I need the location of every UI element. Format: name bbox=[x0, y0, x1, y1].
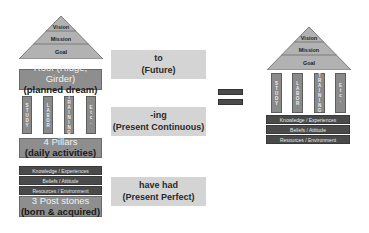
roof-subtitle: (planned dream) bbox=[24, 85, 98, 96]
right-pyramid: Vision Mission Goal bbox=[267, 27, 351, 70]
pillar-labor: LABOR bbox=[43, 96, 53, 134]
left-pyramid: Vision Mission Goal bbox=[19, 16, 103, 59]
continuous-tense: (Present Continuous) bbox=[113, 122, 205, 133]
bar-resources: Resources / Environment bbox=[19, 186, 102, 195]
pillar-training: TRAINING bbox=[64, 96, 74, 134]
bar-beliefs: Beliefs / Attitude bbox=[266, 125, 350, 134]
continuous-box: -ing (Present Continuous) bbox=[111, 107, 206, 136]
stones-box: 3 Post stones (born & acquired) bbox=[19, 196, 102, 217]
pyramid-mission: Mission bbox=[19, 36, 103, 42]
bar-knowledge: Knowledge / Experiences bbox=[19, 166, 102, 175]
pyramid-mission: Mission bbox=[267, 47, 351, 53]
pillar-etc: Etc. bbox=[335, 73, 346, 113]
continuous-word: -ing bbox=[150, 110, 167, 121]
bar-resources: Resources / Environment bbox=[266, 135, 350, 144]
perfect-word: have had bbox=[139, 180, 178, 191]
perfect-tense: (Present Perfect) bbox=[122, 192, 194, 203]
pillars-subtitle: (daily activities) bbox=[25, 148, 96, 159]
stones-subtitle: (born & acquired) bbox=[21, 207, 100, 218]
pyramid-vision: Vision bbox=[267, 35, 351, 41]
equals-top-bar bbox=[218, 89, 243, 95]
pillar-study: STUDY bbox=[22, 96, 32, 134]
pillar-etc: Etc. bbox=[86, 96, 96, 134]
future-tense: (Future) bbox=[142, 65, 176, 76]
roof-title: Roof (Ridge, Girder) bbox=[20, 63, 101, 85]
pyramid-goal: Goal bbox=[267, 60, 351, 66]
stones-title: 3 Post stones bbox=[32, 196, 90, 207]
future-word: to bbox=[154, 53, 163, 64]
pyramid-goal: Goal bbox=[19, 49, 103, 55]
bar-beliefs: Beliefs / Attitude bbox=[19, 176, 102, 185]
pillar-training: TRAINING bbox=[314, 73, 325, 113]
bar-knowledge: Knowledge / Experiences bbox=[266, 115, 350, 124]
future-box: to (Future) bbox=[111, 50, 206, 79]
pillar-labor: LABOR bbox=[292, 73, 303, 113]
perfect-box: have had (Present Perfect) bbox=[111, 177, 206, 206]
pillar-study: STUDY bbox=[271, 73, 282, 113]
pillars-box: 4 Pillars (daily activities) bbox=[19, 138, 102, 158]
pyramid-vision: Vision bbox=[19, 24, 103, 30]
equals-bottom-bar bbox=[218, 99, 243, 105]
roof-box: Roof (Ridge, Girder) (planned dream) bbox=[19, 69, 102, 90]
